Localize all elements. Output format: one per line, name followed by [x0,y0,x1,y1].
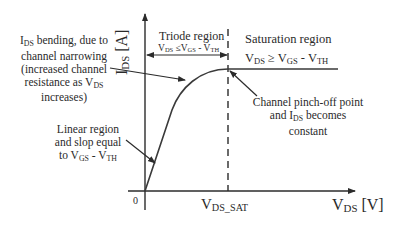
linear-pointer-arrow [126,140,155,163]
pinchoff-annotation: Channel pinch-off point and IDS becomes … [244,96,372,138]
saturation-region-title: Saturation region [245,33,331,46]
pinchoff-pointer-arrow [230,71,257,96]
bending-annotation: IDS bending, due to channel narrowing (i… [14,34,114,104]
x-axis-label: VDS [V] [332,197,384,214]
origin-label: 0 [133,196,138,206]
triode-region-condition: VDS ≤VGS - VTH [158,44,219,54]
linear-region-annotation: Linear region and slop equal to VGS - VT… [48,123,128,165]
triode-region-title: Triode region [159,30,224,42]
vds-sat-label: VDS_SAT [201,197,248,213]
saturation-region-condition: VDS ≥ VGS - VTH [245,52,328,65]
y-axis-label: IDS [A] [114,30,131,75]
